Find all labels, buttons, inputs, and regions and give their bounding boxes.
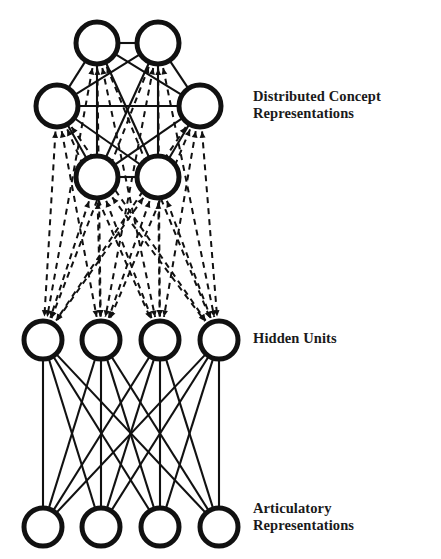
edge-concept-intra <box>67 123 87 159</box>
edge-concept-intra <box>68 60 87 89</box>
layer-label-output: Articulatory Representations <box>253 500 354 534</box>
node-o2 <box>82 508 120 546</box>
edge-concept-hidden <box>44 131 55 316</box>
node-c4 <box>179 85 221 127</box>
node-h2 <box>82 321 120 359</box>
node-o1 <box>24 508 62 546</box>
edge-concept-hidden <box>202 131 217 316</box>
network-diagram: Distributed Concept Representations Hidd… <box>0 0 441 559</box>
edge-concept-intra <box>169 60 189 90</box>
hidden-output-connections <box>43 353 219 514</box>
node-c1 <box>76 22 118 64</box>
node-h4 <box>200 321 238 359</box>
node-h3 <box>141 321 179 359</box>
network-canvas <box>0 0 441 559</box>
edge-concept-hidden <box>98 202 101 316</box>
edge-concept-hidden <box>167 201 211 318</box>
node-h1 <box>24 321 62 359</box>
node-c5 <box>76 156 118 198</box>
node-o3 <box>141 508 179 546</box>
node-o4 <box>200 508 238 546</box>
layer-label-concept: Distributed Concept Representations <box>253 88 381 122</box>
node-c2 <box>137 22 179 64</box>
layer-label-hidden: Hidden Units <box>253 330 337 347</box>
edge-concept-hidden <box>158 202 159 316</box>
node-c3 <box>36 85 78 127</box>
node-c6 <box>137 156 179 198</box>
edge-concept-hidden <box>50 201 89 317</box>
